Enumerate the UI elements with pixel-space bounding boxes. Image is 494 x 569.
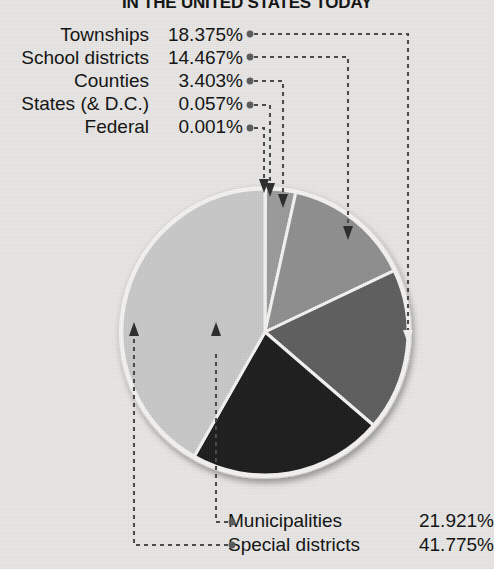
leader-line-special-districts bbox=[134, 330, 228, 545]
leader-line-municipalities bbox=[216, 350, 228, 522]
leader-arrowhead-townships bbox=[403, 330, 413, 344]
leader-dot-counties bbox=[247, 78, 254, 85]
arrowhead-counties bbox=[278, 194, 288, 208]
leader-dot-federal bbox=[247, 125, 254, 132]
leader-line-federal bbox=[254, 128, 264, 181]
leader-dot-special-districts bbox=[229, 542, 236, 549]
leader-line-counties bbox=[254, 81, 283, 196]
leader-arrowheads bbox=[129, 179, 353, 336]
leader-dot-townships bbox=[247, 31, 254, 38]
leader-lines-layer bbox=[0, 0, 494, 569]
arrowhead-municipalities-up bbox=[211, 322, 221, 336]
arrowhead-special-districts bbox=[129, 322, 139, 336]
leader-dot-municipalities bbox=[229, 519, 236, 526]
leader-line-townships bbox=[254, 34, 408, 330]
leader-line-states bbox=[254, 105, 270, 185]
leader-dots bbox=[229, 31, 254, 549]
leader-dot-states bbox=[247, 102, 254, 109]
arrowhead-school-districts bbox=[343, 226, 353, 240]
leader-line-school-districts bbox=[254, 57, 348, 228]
leader-dot-school-districts bbox=[247, 54, 254, 61]
